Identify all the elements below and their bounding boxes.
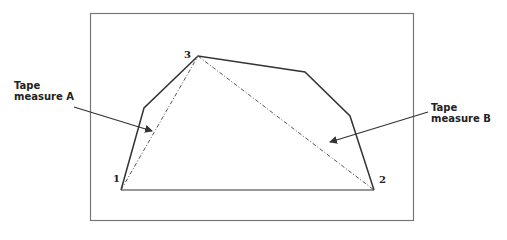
tape-a-line2: measure A	[14, 91, 74, 102]
tape-a-line1: Tape	[14, 80, 74, 91]
tape-measure-b-line	[198, 56, 374, 190]
tape-measure-b-label: Tape measure B	[431, 102, 491, 124]
point-3-label: 3	[184, 49, 191, 60]
field-boundary	[121, 56, 374, 190]
tape-b-line2: measure B	[431, 113, 491, 124]
point-2-label: 2	[379, 174, 386, 185]
tape-b-line1: Tape	[431, 102, 491, 113]
tape-measure-a-label: Tape measure A	[14, 80, 74, 102]
point-1-label: 1	[113, 173, 120, 184]
tape-measure-a-line	[121, 56, 198, 190]
